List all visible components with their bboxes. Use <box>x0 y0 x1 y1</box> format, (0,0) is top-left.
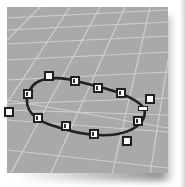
figure: · · · · · · · · · · · <box>0 0 185 187</box>
control-point[interactable] <box>4 107 14 117</box>
control-point[interactable] <box>70 76 80 86</box>
control-point[interactable] <box>33 113 43 123</box>
adjacent-panel-edge <box>180 0 185 187</box>
control-point[interactable] <box>122 136 132 146</box>
control-point[interactable] <box>145 94 155 104</box>
control-point[interactable] <box>89 129 99 139</box>
control-point[interactable] <box>23 89 33 99</box>
control-point[interactable] <box>93 83 103 93</box>
figure-caption: · · · · · · · · · · · <box>40 179 150 187</box>
seam-marker[interactable] <box>138 106 148 111</box>
control-point[interactable] <box>61 121 71 131</box>
control-point[interactable] <box>116 88 126 98</box>
control-point[interactable] <box>133 116 143 126</box>
control-point[interactable] <box>44 71 54 81</box>
